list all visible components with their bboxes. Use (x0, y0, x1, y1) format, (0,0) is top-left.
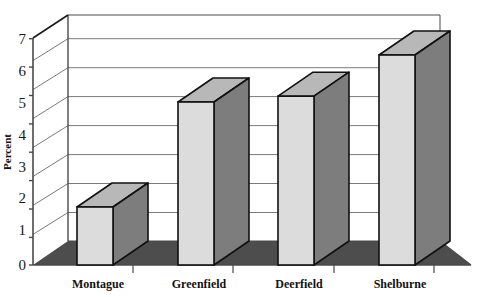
y-axis-title-label: Percent (1, 134, 13, 170)
bar-shelburne[interactable] (379, 31, 450, 265)
y-tick-label-5: 5 (19, 95, 27, 111)
bar-greenfield[interactable] (178, 78, 249, 265)
y-tick-label-2: 2 (19, 190, 27, 206)
bar-chart-figure: 7 6 5 4 3 2 1 0 Percent (0, 0, 483, 297)
y-tick-label-6: 6 (19, 63, 27, 79)
y-tick-label-7: 7 (19, 31, 27, 47)
y-tick-label-3: 3 (19, 159, 27, 175)
x-axis-labels: Montague Greenfield Deerfield Shelburne (72, 277, 427, 291)
y-tick-label-1: 1 (19, 222, 27, 238)
bar-deerfield[interactable] (278, 72, 349, 265)
y-tick-label-0: 0 (19, 257, 27, 273)
x-tick-label-deerfield: Deerfield (275, 277, 323, 291)
plot-left-wall (33, 15, 68, 265)
x-axis-ticks (133, 265, 434, 273)
x-tick-label-montague: Montague (72, 277, 125, 291)
chart-canvas: 7 6 5 4 3 2 1 0 Percent (0, 0, 483, 297)
y-axis-labels: 7 6 5 4 3 2 1 0 (19, 31, 27, 273)
x-tick-label-shelburne: Shelburne (374, 277, 427, 291)
x-tick-label-greenfield: Greenfield (172, 277, 227, 291)
y-axis-title: Percent (1, 134, 13, 170)
y-tick-label-4: 4 (19, 127, 27, 143)
